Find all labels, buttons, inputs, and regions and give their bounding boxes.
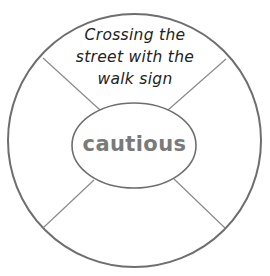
divider-lower-right: [174, 179, 225, 228]
divider-upper-right: [168, 59, 226, 110]
sector-top-line-2: street with the: [76, 48, 194, 66]
divider-lower-left: [43, 180, 94, 228]
word-wheel-diagram: Crossing the street with the walk sign c…: [0, 0, 270, 276]
sector-top-line-1: Crossing the: [85, 26, 186, 44]
sector-top-line-3: walk sign: [97, 70, 172, 88]
center-label: cautious: [83, 132, 187, 156]
sector-top: Crossing the street with the walk sign: [76, 26, 194, 88]
